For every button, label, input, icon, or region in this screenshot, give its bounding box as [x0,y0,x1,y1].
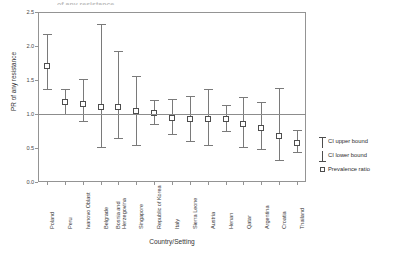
legend-label-ci-upper: CI upper bound [328,138,368,144]
legend-label-ci-lower: CI lower bound [328,152,367,158]
x-axis-label: Sierra Leone [192,198,198,229]
ci-upper-cap [61,89,70,90]
x-tick-mark [83,182,84,185]
prevalence-ratio-marker [44,63,50,69]
x-tick-mark [47,182,48,185]
reference-line [38,114,306,115]
x-tick-mark [101,182,102,185]
x-tick-mark [154,182,155,185]
y-tick-mark [35,148,38,149]
prevalence-ratio-marker [294,140,300,146]
x-axis-label: Croatia [281,211,287,229]
prevalence-ratio-marker [205,116,211,122]
ci-lower-cap [204,145,213,146]
forest-plot-figure: of any resistance PR of any resistance C… [0,0,412,259]
x-tick-mark [208,182,209,185]
x-axis-label: Poland [49,212,55,229]
ci-upper-cap [257,102,266,103]
prevalence-ratio-marker [62,99,68,105]
ci-upper-cap [132,76,141,77]
x-tick-mark [297,182,298,185]
ci-upper-cap [114,51,123,52]
y-tick-mark [35,182,38,183]
prevalence-ratio-marker [80,101,86,107]
ci-lower-cap [97,147,106,148]
ci-upper-cap [186,96,195,97]
ci-lower-cap [132,145,141,146]
x-tick-mark [279,182,280,185]
ci-upper-cap [97,24,106,25]
y-tick-mark [35,12,38,13]
x-tick-mark [226,182,227,185]
error-bar-upper-icon [318,136,327,149]
y-tick-mark [35,80,38,81]
x-axis-label: Austria [210,212,216,229]
ci-upper-cap [222,105,231,106]
ci-lower-cap [257,149,266,150]
x-axis-label: Thailand [299,208,305,229]
x-axis-label: Bosnia andHerzegovina [115,198,127,229]
y-tick-label: 2.5 [12,9,34,15]
prevalence-ratio-marker [115,104,121,110]
ci-upper-cap [79,79,88,80]
x-tick-mark [136,182,137,185]
prevalence-ratio-marker [187,116,193,122]
y-tick-label: 2.0 [12,43,34,49]
x-axis-label: Republic of Korea [156,185,162,229]
y-tick-mark [35,46,38,47]
x-axis-label: Singapore [138,204,144,229]
x-axis-title: Country/Setting [38,238,306,245]
clipped-title-text: of any resistance [57,0,177,5]
prevalence-ratio-marker [240,121,246,127]
legend-label-prevalence-ratio: Prevalence ratio [328,166,370,172]
x-tick-mark [190,182,191,185]
error-bar-lower-icon [318,150,327,163]
x-tick-mark [118,182,119,185]
prevalence-ratio-marker [276,133,282,139]
ci-lower-cap [293,152,302,153]
ci-lower-cap [222,131,231,132]
error-bar-line [47,34,48,88]
legend-item-prevalence-ratio: Prevalence ratio [317,164,410,176]
x-tick-mark [65,182,66,185]
y-tick-label: 1.0 [12,111,34,117]
y-tick-label: 0.5 [12,145,34,151]
x-axis-label: Ivanovo Oblast [85,192,91,229]
x-axis-label: Peru [67,217,73,229]
x-axis-label: Henan [228,213,234,229]
x-tick-mark [172,182,173,185]
ci-lower-cap [79,121,88,122]
y-tick-label: 0.0 [12,179,34,185]
legend: CI upper bound CI lower bound Prevalence… [317,136,410,176]
ci-lower-cap [168,134,177,135]
ci-lower-cap [186,141,195,142]
x-axis-label: Belgrade [103,207,109,229]
ci-lower-cap [239,147,248,148]
open-square-marker-icon [318,164,327,177]
ci-lower-cap [43,89,52,90]
x-tick-mark [261,182,262,185]
ci-lower-cap [275,160,284,161]
x-axis-label: Qatar [246,215,252,229]
plot-area [38,12,306,182]
ci-upper-cap [204,89,213,90]
error-bar-line [279,88,280,159]
legend-item-ci-upper: CI upper bound [317,136,410,150]
prevalence-ratio-marker [98,104,104,110]
ci-upper-cap [168,99,177,100]
x-axis-label: Italy [174,219,180,229]
prevalence-ratio-marker [258,125,264,131]
ci-upper-cap [43,34,52,35]
prevalence-ratio-marker [223,116,229,122]
x-axis-label: Argentina [264,206,270,230]
legend-item-ci-lower: CI lower bound [317,150,410,164]
error-bar-line [101,24,102,147]
ci-upper-cap [150,100,159,101]
ci-lower-cap [114,138,123,139]
ci-upper-cap [239,97,248,98]
y-tick-label: 1.5 [12,77,34,83]
x-tick-mark [243,182,244,185]
ci-upper-cap [293,130,302,131]
ci-upper-cap [275,88,284,89]
ci-lower-cap [150,124,159,125]
